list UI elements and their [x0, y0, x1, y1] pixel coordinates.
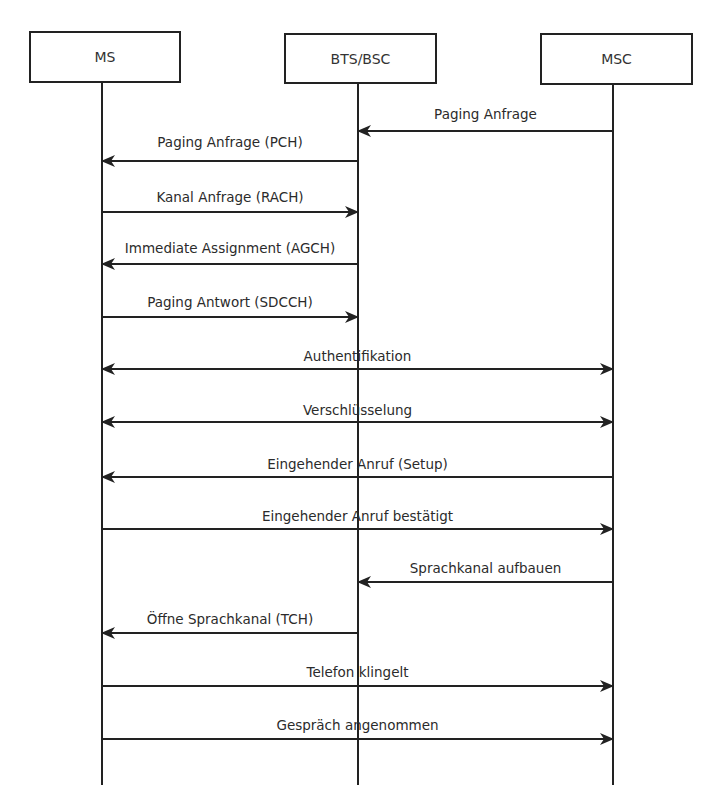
message-label-7: Verschlüsselung [303, 402, 412, 418]
message-label-4: Immediate Assignment (AGCH) [125, 240, 335, 256]
message-label-12: Telefon klingelt [307, 664, 409, 680]
message-label-10: Sprachkanal aufbauen [410, 560, 562, 576]
message-label-1: Paging Anfrage [434, 106, 537, 122]
message-label-11: Öffne Sprachkanal (TCH) [147, 611, 313, 627]
message-label-8: Eingehender Anruf (Setup) [267, 456, 448, 472]
message-label-3: Kanal Anfrage (RACH) [156, 189, 303, 205]
message-label-2: Paging Anfrage (PCH) [157, 134, 302, 150]
message-label-9: Eingehender Anruf bestätigt [262, 508, 453, 524]
participant-box-msc: MSC [540, 33, 693, 85]
message-label-6: Authentifikation [304, 348, 412, 364]
message-label-13: Gespräch angenommen [276, 717, 438, 733]
participant-box-bts: BTS/BSC [284, 33, 437, 84]
message-label-5: Paging Antwort (SDCCH) [147, 294, 313, 310]
participant-box-ms: MS [29, 31, 181, 83]
